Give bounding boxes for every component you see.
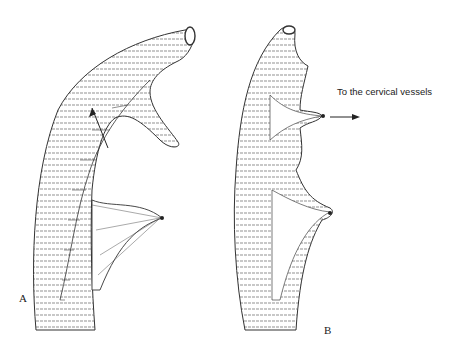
panel-label-b: B [324, 324, 331, 336]
panel-a-drawing [34, 27, 195, 330]
panel-b-drawing [234, 26, 360, 330]
cervical-vessels-note: To the cervical vessels [337, 86, 432, 97]
panel-label-a: A [19, 292, 27, 304]
figure-canvas: A B To the cervical vessels [0, 0, 463, 348]
illustration [0, 0, 463, 348]
figure-caption [18, 340, 458, 348]
